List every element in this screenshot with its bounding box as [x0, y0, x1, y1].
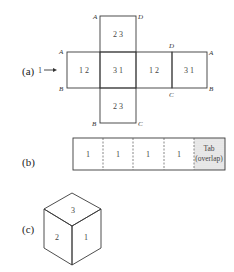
vertex-label: D — [168, 42, 174, 50]
vertex-label: B — [209, 85, 214, 93]
segment-label: 1 — [177, 150, 181, 159]
vertex-label: D — [137, 13, 143, 21]
segment-label: 1 — [146, 150, 150, 159]
face-left-label: 1 2 — [79, 66, 89, 75]
vertex-label: B — [59, 85, 64, 93]
arrow-label: 1 — [38, 66, 42, 75]
net-diagram-figure: (a) 1 2 3 1 2 3 1 1 2 3 1 2 3 A D A B D … — [0, 0, 234, 272]
face-right1-label: 1 2 — [149, 66, 159, 75]
vertex-label: A — [92, 13, 98, 21]
face-top-label: 2 3 — [113, 30, 123, 39]
tab-label: (overlap) — [195, 154, 223, 163]
vertex-label: B — [92, 120, 97, 128]
face-center-label: 3 1 — [113, 66, 123, 75]
face-bottom-label: 2 3 — [113, 102, 123, 111]
cube-right-label: 1 — [84, 233, 88, 242]
part-c-label: (c) — [22, 223, 35, 236]
tab-label: Tab — [203, 144, 214, 153]
cube-top-label: 3 — [71, 206, 75, 215]
cube-left-label: 2 — [55, 233, 59, 242]
face-right2-label: 3 1 — [184, 66, 194, 75]
arrow-icon — [44, 68, 57, 72]
part-b-strip: (b) 1 1 1 1 Tab (overlap) — [22, 138, 225, 170]
part-b-label: (b) — [22, 156, 35, 169]
segment-label: 1 — [86, 150, 90, 159]
vertex-label: C — [169, 91, 174, 99]
vertex-label: A — [208, 49, 214, 57]
vertex-label: A — [58, 48, 64, 56]
segment-label: 1 — [116, 150, 120, 159]
part-c-cube: (c) 3 2 1 — [22, 193, 101, 265]
part-a-label: (a) — [22, 65, 35, 78]
part-a-net: (a) 1 2 3 1 2 3 1 1 2 3 1 2 3 A D A B D … — [22, 13, 214, 128]
vertex-label: C — [138, 120, 143, 128]
